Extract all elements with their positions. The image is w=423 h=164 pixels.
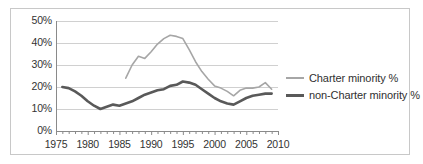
legend-swatch-non-charter-icon (286, 94, 304, 97)
y-axis-tick-label: 40% (20, 36, 52, 48)
y-axis-tick-label: 0% (20, 124, 52, 136)
data-series-group (62, 35, 271, 109)
x-axis-tick-label: 2005 (229, 138, 263, 150)
y-axis-tick-label: 10% (20, 102, 52, 114)
y-axis-tick-label: 50% (20, 14, 52, 26)
chart-figure: 50%40%30%20%10%0% 1975198019851990199520… (0, 0, 423, 164)
legend-label-charter: Charter minority % (309, 72, 398, 84)
x-axis-tick-label: 2010 (261, 138, 295, 150)
legend-swatch-charter-icon (286, 77, 304, 79)
y-axis-tick-label: 30% (20, 58, 52, 70)
x-axis-tick-label: 1980 (71, 138, 105, 150)
y-axis-tick-label: 20% (20, 80, 52, 92)
x-axis-tick-label: 1985 (102, 138, 136, 150)
legend-label-non-charter: non-Charter minority % (309, 89, 420, 101)
x-axis-tick-label: 1995 (166, 138, 200, 150)
x-axis-tick-label: 2000 (198, 138, 232, 150)
x-axis-tick-label: 1975 (39, 138, 73, 150)
legend-entry-non-charter: non-Charter minority % (286, 88, 420, 102)
x-axis-tick-label: 1990 (134, 138, 168, 150)
legend-entry-charter: Charter minority % (286, 71, 398, 85)
series-line-non-charter (62, 82, 271, 110)
gridlines-group (56, 22, 278, 132)
